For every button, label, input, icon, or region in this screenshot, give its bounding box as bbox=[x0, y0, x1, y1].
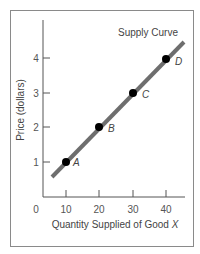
point-c bbox=[129, 89, 137, 97]
x-axis-title: Quantity Supplied of Good X bbox=[52, 219, 179, 230]
point-a bbox=[62, 158, 70, 166]
point-d bbox=[162, 55, 170, 63]
point-label-a: A bbox=[72, 157, 80, 168]
y-tick-label: 4 bbox=[33, 53, 39, 64]
y-axis-title: Price (dollars) bbox=[15, 79, 26, 141]
supply-curve-chart: 1 2 3 4 0 10 20 30 40 Quantity Supplied … bbox=[0, 0, 200, 254]
point-label-d: D bbox=[175, 56, 182, 67]
y-tick-label: 3 bbox=[33, 88, 39, 99]
x-tick-label: 0 bbox=[33, 204, 39, 215]
x-tick-label: 20 bbox=[93, 204, 105, 215]
y-tick-label: 2 bbox=[33, 122, 39, 133]
point-label-c: C bbox=[142, 89, 150, 100]
x-tick-label: 40 bbox=[160, 204, 172, 215]
y-tick-label: 1 bbox=[33, 157, 39, 168]
x-tick-label: 10 bbox=[60, 204, 72, 215]
point-label-b: B bbox=[108, 123, 115, 134]
x-tick-label: 30 bbox=[127, 204, 139, 215]
curve-label: Supply Curve bbox=[118, 27, 178, 38]
point-b bbox=[95, 123, 103, 131]
